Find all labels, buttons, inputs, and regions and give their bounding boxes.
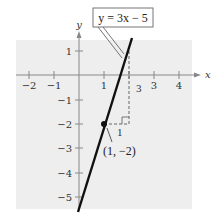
- x-tick-label: 4: [176, 80, 182, 91]
- y-tick-label: −1: [57, 95, 72, 106]
- point-marker: [101, 121, 107, 127]
- x-tick-label: 1: [101, 80, 107, 91]
- run-label: 1: [117, 126, 123, 138]
- y-axis-label: y: [75, 19, 82, 30]
- equation-label: y = 3x − 5: [98, 11, 148, 25]
- x-axis-label: x: [205, 69, 211, 80]
- x-tick-label: 3: [151, 80, 157, 91]
- y-tick-label: 1: [66, 46, 72, 57]
- graph-figure: −2 −1 1 3 4 x y 1 −1 −2 −3 −4 −5 3 1 (1,…: [0, 0, 221, 219]
- x-tick-label: −1: [47, 80, 62, 91]
- y-axis-arrow-icon: [77, 31, 82, 38]
- point-label: (1, −2): [103, 144, 136, 158]
- x-tick-label: −2: [22, 80, 37, 91]
- y-tick-label: −3: [57, 143, 72, 154]
- x-axis-arrow-icon: [194, 73, 201, 78]
- rise-label: 3: [136, 82, 142, 94]
- y-tick-label: −5: [57, 192, 72, 203]
- y-tick-label: −4: [57, 168, 72, 179]
- y-tick-label: −2: [57, 119, 72, 130]
